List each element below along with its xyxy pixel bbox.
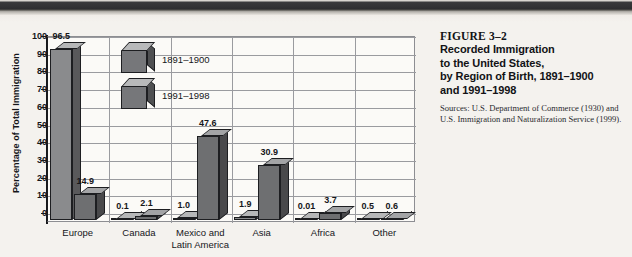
figure-sheet: Percentage of Total Immigration 10090807… xyxy=(0,22,632,257)
legend-cube-face xyxy=(121,86,147,109)
x-axis-label-line: Asia xyxy=(231,227,292,239)
x-axis-label: Europe xyxy=(47,227,108,239)
x-axis-label-line: Africa xyxy=(292,227,353,239)
x-axis-label: Other xyxy=(354,227,415,239)
figure-title: Recorded Immigrationto the United States… xyxy=(440,43,626,97)
x-axis-label-line: Latin America xyxy=(170,239,231,251)
x-axis-label-line: Other xyxy=(354,227,415,239)
figure-number: FIGURE 3–2 xyxy=(440,30,626,42)
figure-title-line: to the United States, xyxy=(440,57,626,71)
plot-wrapper: 96.514.90.12.11.047.61.930.90.013.70.50.… xyxy=(47,36,415,222)
page-edge-shadow xyxy=(0,12,632,15)
legend-cube-icon xyxy=(121,78,155,109)
x-axis-label-line: Europe xyxy=(47,227,108,239)
legend-label: 1891–1900 xyxy=(162,54,210,65)
figure-title-line: and 1991–1998 xyxy=(440,84,626,98)
figure-sources: Sources: U.S. Department of Commerce (19… xyxy=(440,103,626,124)
legend-label: 1991–1998 xyxy=(162,90,210,101)
y-axis-ticks: 1009080706050403020100 xyxy=(8,22,47,257)
immigration-bar-chart: Percentage of Total Immigration 10090807… xyxy=(0,22,432,257)
chart-legend: 1891–19001991–1998 xyxy=(47,36,415,222)
x-axis-label-line: Mexico and xyxy=(170,227,231,239)
x-axis-label: Africa xyxy=(292,227,353,239)
x-axis-label: Mexico andLatin America xyxy=(170,227,231,250)
x-axis-label-line: Canada xyxy=(108,227,169,239)
legend-cube-icon xyxy=(121,42,155,73)
x-axis-category-labels: EuropeCanadaMexico andLatin AmericaAsiaA… xyxy=(47,227,415,257)
figure-title-line: Recorded Immigration xyxy=(440,43,626,57)
x-axis-label: Asia xyxy=(231,227,292,239)
figure-title-line: by Region of Birth, 1891–1900 xyxy=(440,70,626,84)
x-axis-label: Canada xyxy=(108,227,169,239)
legend-cube-face xyxy=(121,50,147,73)
figure-caption: FIGURE 3–2 Recorded Immigrationto the Un… xyxy=(440,30,626,124)
scanned-page-top-edge xyxy=(0,0,632,22)
